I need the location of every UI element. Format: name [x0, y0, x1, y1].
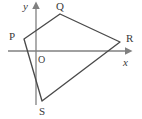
y-axis-label: y [23, 1, 28, 12]
figure-canvas [0, 0, 142, 119]
vertex-label-q: Q [56, 1, 64, 12]
origin-label: O [38, 55, 45, 65]
vertex-label-p: P [9, 31, 15, 42]
vertex-label-r: R [126, 33, 133, 44]
x-axis-label: x [123, 57, 128, 68]
vertex-label-s: S [39, 106, 45, 117]
geometry-figure: y x O P Q R S [0, 0, 142, 119]
